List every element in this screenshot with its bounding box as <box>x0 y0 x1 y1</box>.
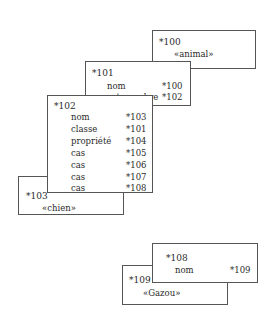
slot-ref: *103 <box>126 112 146 122</box>
node-108: *108 nom *109 <box>152 243 258 283</box>
slot-ref: *107 <box>126 172 146 182</box>
slot-key: propriété <box>71 136 111 146</box>
node-id: *102 <box>54 101 76 111</box>
node-id: *103 <box>26 191 48 201</box>
slot-ref: *100 <box>162 81 182 91</box>
slot-ref: *109 <box>230 265 250 275</box>
slot-key: cas <box>71 183 85 193</box>
node-value: «chien» <box>42 203 76 213</box>
node-id: *108 <box>166 253 188 263</box>
slot-key: classe <box>71 124 97 134</box>
slot-key: cas <box>71 172 85 182</box>
slot-key: nom <box>71 112 90 122</box>
slot-key: cas <box>71 160 85 170</box>
node-value: «Gazou» <box>143 288 180 298</box>
node-id: *101 <box>92 68 114 78</box>
slot-key: nom <box>175 265 194 275</box>
slot-ref: *104 <box>126 136 146 146</box>
slot-key: cas <box>71 148 85 158</box>
slot-ref: *101 <box>126 124 146 134</box>
slot-ref: *105 <box>126 148 146 158</box>
slot-ref: *102 <box>162 92 182 102</box>
node-id: *109 <box>129 275 151 285</box>
slot-key: nom <box>107 81 126 91</box>
node-102: *102 nom *103 classe *101 propriété *104… <box>47 95 153 193</box>
node-id: *100 <box>159 37 181 47</box>
slot-ref: *106 <box>126 160 146 170</box>
slot-ref: *108 <box>126 183 146 193</box>
node-value: «animal» <box>174 49 214 59</box>
